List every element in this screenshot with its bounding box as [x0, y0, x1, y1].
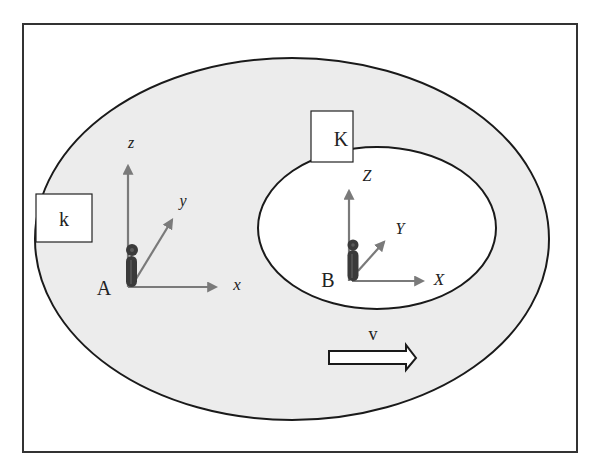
observer-a-figure-icon: [126, 244, 138, 287]
axis-b-x-label: X: [433, 270, 445, 289]
reference-frames-diagram: k K z y x A Z Y X: [0, 0, 599, 468]
frame-k-label-box: k: [36, 194, 92, 242]
observer-a-label: A: [97, 277, 112, 299]
observer-b-figure-icon: [348, 240, 359, 282]
frame-K-label: K: [334, 128, 349, 150]
axis-a-z-label: z: [127, 134, 135, 151]
frame-K-region: [258, 147, 496, 309]
axis-a-y-label: y: [177, 192, 187, 210]
observer-b-label: B: [321, 269, 334, 291]
frame-k-label: k: [59, 208, 69, 230]
frame-K-label-box: K: [311, 111, 353, 162]
velocity-label: v: [369, 324, 378, 344]
axis-a-x-label: x: [232, 275, 241, 294]
axis-b-z-label: Z: [363, 167, 373, 184]
